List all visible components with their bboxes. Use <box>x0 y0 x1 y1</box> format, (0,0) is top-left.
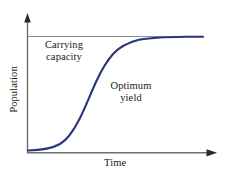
carrying-capacity-label: Carrying capacity <box>41 39 87 63</box>
optimum-yield-label: Optimum yield <box>107 80 155 104</box>
x-axis-arrow-icon <box>207 149 218 156</box>
population-growth-chart: Carrying capacity Optimum yield Time Pop… <box>0 0 226 176</box>
y-axis-label: Population <box>8 54 19 126</box>
y-axis-arrow-icon <box>24 13 31 23</box>
x-axis-label: Time <box>104 157 126 168</box>
